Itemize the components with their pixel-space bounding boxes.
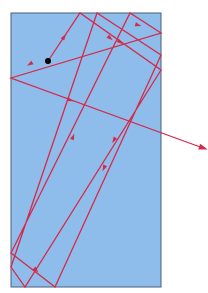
light-source-dot [45, 58, 51, 64]
ray-diagram [0, 0, 208, 293]
exit-arrowhead-icon [198, 144, 207, 150]
